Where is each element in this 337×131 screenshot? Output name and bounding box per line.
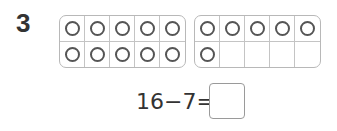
circle-counter-icon xyxy=(165,47,180,62)
question-number: 3 xyxy=(16,8,30,39)
circle-counter-icon xyxy=(65,47,80,62)
ten-frame-cell xyxy=(295,16,320,42)
circle-counter-icon xyxy=(90,47,105,62)
circle-counter-icon xyxy=(140,21,155,36)
circle-counter-icon xyxy=(300,21,315,36)
circle-counter-icon xyxy=(65,21,80,36)
ten-frame-cell xyxy=(160,42,185,68)
minus-operator: − xyxy=(164,89,182,114)
answer-input-box[interactable] xyxy=(209,83,245,119)
circle-counter-icon xyxy=(225,21,240,36)
ten-frame-1 xyxy=(59,15,186,68)
ten-frame-cell xyxy=(245,42,270,68)
ten-frame-cell xyxy=(220,16,245,42)
circle-counter-icon xyxy=(250,21,265,36)
ten-frame-cell xyxy=(60,16,85,42)
ten-frame-cell xyxy=(110,42,135,68)
ten-frame-cell xyxy=(270,16,295,42)
ten-frame-2 xyxy=(194,15,321,68)
circle-counter-icon xyxy=(115,21,130,36)
ten-frame-cell xyxy=(110,16,135,42)
circle-counter-icon xyxy=(165,21,180,36)
ten-frame-cell xyxy=(295,42,320,68)
minuend: 16 xyxy=(136,89,164,114)
ten-frame-cell xyxy=(135,42,160,68)
circle-counter-icon xyxy=(200,21,215,36)
equation: 16 − 7 = xyxy=(136,84,215,118)
circle-counter-icon xyxy=(115,47,130,62)
ten-frame-cell xyxy=(135,16,160,42)
ten-frame-cell xyxy=(245,16,270,42)
circle-counter-icon xyxy=(200,47,215,62)
ten-frame-cell xyxy=(195,16,220,42)
subtrahend: 7 xyxy=(182,89,196,114)
ten-frame-cell xyxy=(270,42,295,68)
circle-counter-icon xyxy=(90,21,105,36)
ten-frame-cell xyxy=(85,16,110,42)
circle-counter-icon xyxy=(140,47,155,62)
ten-frame-cell xyxy=(60,42,85,68)
ten-frame-cell xyxy=(85,42,110,68)
ten-frame-cell xyxy=(195,42,220,68)
ten-frame-cell xyxy=(160,16,185,42)
circle-counter-icon xyxy=(275,21,290,36)
ten-frame-cell xyxy=(220,42,245,68)
